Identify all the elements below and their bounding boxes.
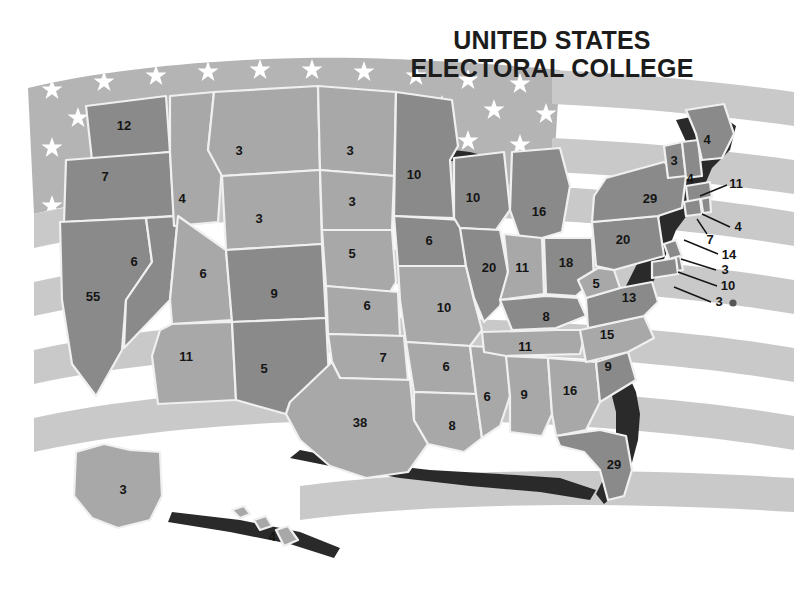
title-line-2: ELECTORAL COLLEGE <box>352 54 752 82</box>
state-votes-hi: 4 <box>268 529 276 544</box>
state-votes-oh: 18 <box>559 255 573 270</box>
state-votes-il: 20 <box>482 260 496 275</box>
state-ar <box>406 342 476 394</box>
state-votes-in: 11 <box>515 260 529 275</box>
state-ok <box>328 334 408 380</box>
state-votes-mi: 16 <box>532 204 546 219</box>
state-mn <box>394 92 458 218</box>
state-ne <box>322 230 396 292</box>
state-votes-tx: 38 <box>353 415 367 430</box>
state-votes-ne: 5 <box>348 246 355 261</box>
state-votes-ms: 6 <box>483 389 490 404</box>
state-al <box>506 356 552 436</box>
state-votes-wa: 12 <box>117 118 131 133</box>
state-votes-dc: 3 <box>715 294 722 309</box>
state-votes-ut: 6 <box>199 266 206 281</box>
state-votes-wv: 5 <box>592 276 599 291</box>
state-votes-la: 8 <box>448 418 455 433</box>
state-votes-me: 4 <box>703 132 711 147</box>
state-votes-wy: 3 <box>255 211 262 226</box>
state-votes-va: 13 <box>622 290 636 305</box>
state-votes-id: 4 <box>178 191 186 206</box>
state-wi <box>454 152 510 230</box>
us-electoral-map: 1275564336911533567381061068102061611188… <box>0 0 794 603</box>
state-votes-or: 7 <box>101 169 108 184</box>
state-votes-sc: 9 <box>604 359 611 374</box>
state-votes-ar: 6 <box>442 359 449 374</box>
state-sd <box>320 170 394 230</box>
state-votes-ct: 7 <box>706 232 713 247</box>
state-votes-mt: 3 <box>235 143 242 158</box>
state-mi <box>510 148 570 244</box>
state-votes-ks: 6 <box>363 298 370 313</box>
state-ct <box>684 199 702 216</box>
state-votes-co: 9 <box>270 286 277 301</box>
state-votes-mn: 10 <box>407 167 421 182</box>
state-votes-nd: 3 <box>346 143 353 158</box>
state-votes-ri: 4 <box>734 219 742 234</box>
state-votes-ga: 16 <box>563 383 577 398</box>
state-votes-ca: 55 <box>86 289 100 304</box>
state-votes-tn: 11 <box>518 339 532 354</box>
state-ak <box>74 444 162 528</box>
state-tn <box>482 330 586 356</box>
state-or <box>64 152 174 222</box>
state-votes-nv: 6 <box>130 254 137 269</box>
state-votes-de: 3 <box>721 262 728 277</box>
state-votes-fl: 29 <box>607 457 621 472</box>
state-mt <box>208 86 320 176</box>
state-votes-ak: 3 <box>119 482 126 497</box>
state-ri <box>701 197 711 213</box>
state-wy <box>222 170 322 250</box>
state-votes-ny: 29 <box>643 191 657 206</box>
state-co <box>226 244 326 322</box>
state-votes-wi: 10 <box>466 190 480 205</box>
state-votes-nm: 5 <box>260 361 267 376</box>
title-line-1: UNITED STATES <box>352 26 752 54</box>
state-votes-pa: 20 <box>616 232 630 247</box>
state-votes-az: 11 <box>179 349 193 364</box>
state-votes-ok: 7 <box>379 350 386 365</box>
state-votes-md: 10 <box>721 278 735 293</box>
state-md <box>652 258 678 278</box>
state-nd <box>318 86 396 176</box>
state-votes-al: 9 <box>520 387 527 402</box>
state-votes-vt: 3 <box>670 153 677 168</box>
state-votes-nh: 4 <box>686 171 694 186</box>
state-votes-ma: 11 <box>729 176 743 191</box>
state-votes-ia: 6 <box>425 233 432 248</box>
state-votes-sd: 3 <box>348 194 355 209</box>
state-votes-mo: 10 <box>437 300 451 315</box>
electoral-college-map-figure: 1275564336911533567381061068102061611188… <box>0 0 794 603</box>
page-title: UNITED STATES ELECTORAL COLLEGE <box>352 26 752 82</box>
dc-marker-dot <box>729 299 736 306</box>
state-votes-nc: 15 <box>600 327 614 342</box>
state-votes-ky: 8 <box>542 309 549 324</box>
state-az <box>152 322 236 404</box>
state-votes-nj: 14 <box>722 247 737 262</box>
